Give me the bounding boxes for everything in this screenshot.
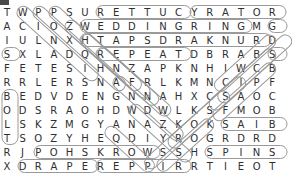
grid-cell[interactable]: G: [171, 20, 186, 33]
grid-cell[interactable]: T: [93, 34, 108, 47]
grid-cell[interactable]: R: [249, 132, 264, 145]
grid-cell[interactable]: X: [62, 34, 77, 47]
grid-cell[interactable]: D: [156, 34, 171, 47]
grid-cell[interactable]: N: [218, 34, 233, 47]
grid-cell[interactable]: E: [15, 90, 30, 103]
grid-cell[interactable]: S: [62, 62, 77, 75]
grid-cell[interactable]: T: [31, 62, 46, 75]
grid-cell[interactable]: T: [140, 6, 155, 19]
grid-cell[interactable]: X: [187, 90, 202, 103]
grid-cell[interactable]: E: [46, 62, 61, 75]
grid-cell[interactable]: O: [46, 20, 61, 33]
grid-cell[interactable]: N: [124, 118, 139, 131]
grid-cell[interactable]: R: [15, 76, 30, 89]
grid-cell[interactable]: W: [234, 62, 249, 75]
grid-cell[interactable]: C: [15, 20, 30, 33]
grid-cell[interactable]: W: [140, 146, 155, 159]
grid-cell[interactable]: R: [62, 76, 77, 89]
grid-cell[interactable]: E: [46, 76, 61, 89]
grid-cell[interactable]: D: [265, 132, 280, 145]
grid-cell[interactable]: P: [31, 6, 46, 19]
grid-cell[interactable]: S: [202, 146, 217, 159]
grid-cell[interactable]: I: [156, 160, 171, 173]
grid-cell[interactable]: U: [234, 34, 249, 47]
grid-cell[interactable]: R: [0, 146, 15, 159]
grid-cell[interactable]: H: [78, 132, 93, 145]
grid-cell[interactable]: N: [124, 90, 139, 103]
grid-cell[interactable]: D: [109, 20, 124, 33]
grid-cell[interactable]: R: [202, 6, 217, 19]
grid-cell[interactable]: E: [234, 160, 249, 173]
grid-cell[interactable]: U: [78, 6, 93, 19]
grid-cell[interactable]: A: [46, 48, 61, 61]
grid-cell[interactable]: I: [140, 20, 155, 33]
grid-cell[interactable]: I: [140, 132, 155, 145]
grid-cell[interactable]: S: [78, 146, 93, 159]
grid-cell[interactable]: N: [202, 76, 217, 89]
grid-cell[interactable]: T: [0, 132, 15, 145]
grid-cell[interactable]: B: [265, 62, 280, 75]
grid-cell[interactable]: O: [124, 146, 139, 159]
grid-cell[interactable]: H: [78, 34, 93, 47]
grid-cell[interactable]: P: [31, 146, 46, 159]
grid-cell[interactable]: I: [202, 20, 217, 33]
grid-cell[interactable]: W: [124, 104, 139, 117]
grid-cell[interactable]: R: [249, 34, 264, 47]
grid-cell[interactable]: D: [15, 104, 30, 117]
grid-cell[interactable]: R: [171, 160, 186, 173]
grid-cell[interactable]: X: [15, 48, 30, 61]
grid-cell[interactable]: Z: [46, 118, 61, 131]
grid-cell[interactable]: A: [156, 90, 171, 103]
grid-cell[interactable]: E: [93, 20, 108, 33]
grid-cell[interactable]: A: [62, 104, 77, 117]
grid-cell[interactable]: Z: [156, 118, 171, 131]
grid-cell[interactable]: A: [234, 48, 249, 61]
grid-cell[interactable]: B: [202, 48, 217, 61]
grid-cell[interactable]: K: [171, 76, 186, 89]
grid-cell[interactable]: S: [15, 118, 30, 131]
grid-cell[interactable]: K: [171, 118, 186, 131]
grid-cell[interactable]: L: [171, 104, 186, 117]
grid-cell[interactable]: L: [31, 48, 46, 61]
grid-cell[interactable]: L: [156, 76, 171, 89]
grid-cell[interactable]: S: [78, 76, 93, 89]
grid-cell[interactable]: G: [265, 20, 280, 33]
grid-cell[interactable]: S: [265, 146, 280, 159]
grid-cell[interactable]: A: [109, 76, 124, 89]
grid-cell[interactable]: O: [46, 146, 61, 159]
grid-cell[interactable]: U: [15, 34, 30, 47]
grid-cell[interactable]: Y: [187, 6, 202, 19]
grid-cell[interactable]: D: [124, 132, 139, 145]
grid-cell[interactable]: J: [15, 146, 30, 159]
grid-cell[interactable]: D: [187, 48, 202, 61]
grid-cell[interactable]: H: [62, 146, 77, 159]
grid-cell[interactable]: L: [31, 76, 46, 89]
grid-cell[interactable]: N: [218, 20, 233, 33]
grid-cell[interactable]: C: [218, 76, 233, 89]
grid-cell[interactable]: S: [62, 6, 77, 19]
grid-cell[interactable]: Z: [124, 62, 139, 75]
grid-cell[interactable]: D: [15, 160, 30, 173]
grid-cell[interactable]: R: [93, 48, 108, 61]
grid-cell[interactable]: G: [78, 118, 93, 131]
grid-cell[interactable]: B: [265, 104, 280, 117]
grid-cell[interactable]: R: [140, 76, 155, 89]
grid-cell[interactable]: I: [0, 34, 15, 47]
grid-cell[interactable]: T: [171, 48, 186, 61]
grid-cell[interactable]: N: [140, 90, 155, 103]
grid-cell[interactable]: D: [140, 104, 155, 117]
grid-cell[interactable]: L: [0, 118, 15, 131]
grid-cell[interactable]: O: [187, 132, 202, 145]
grid-cell[interactable]: T: [124, 6, 139, 19]
grid-cell[interactable]: N: [109, 62, 124, 75]
grid-cell[interactable]: Y: [93, 118, 108, 131]
grid-cell[interactable]: W: [15, 6, 30, 19]
grid-cell[interactable]: I: [218, 62, 233, 75]
grid-cell[interactable]: K: [171, 62, 186, 75]
grid-cell[interactable]: V: [46, 90, 61, 103]
grid-cell[interactable]: L: [31, 34, 46, 47]
grid-cell[interactable]: G: [202, 132, 217, 145]
grid-cell[interactable]: N: [93, 76, 108, 89]
grid-cell[interactable]: R: [171, 132, 186, 145]
grid-cell[interactable]: P: [124, 34, 139, 47]
